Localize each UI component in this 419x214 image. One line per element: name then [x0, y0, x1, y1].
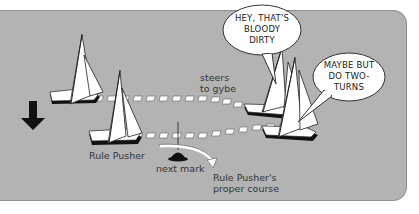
- bubble2-line1: MAYBE BUT: [318, 60, 380, 71]
- proper-course-label: Rule Pusher's proper course: [213, 172, 279, 194]
- bubble1-line3: DIRTY: [229, 35, 295, 46]
- steers-label-line1: steers: [200, 72, 236, 83]
- proper-course-line2: proper course: [213, 183, 279, 194]
- wake-track-upper: [81, 96, 243, 107]
- buoy-mark-icon: [168, 122, 188, 162]
- bubble1-line2: BLOODY: [229, 24, 295, 35]
- next-mark-label: next mark: [156, 163, 205, 174]
- rule-pusher-label: Rule Pusher: [89, 150, 145, 161]
- steers-to-gybe-label: steers to gybe: [200, 72, 236, 94]
- sailing-scene: [0, 0, 419, 214]
- proper-course-line1: Rule Pusher's: [213, 172, 279, 183]
- steers-label-line2: to gybe: [200, 83, 236, 94]
- bubble2-line3: TURNS: [318, 82, 380, 93]
- sailboat-top-left-icon: [50, 34, 103, 104]
- speech-bubble-1-text: HEY, THAT'S BLOODY DIRTY: [229, 13, 295, 46]
- speech-bubble-2-text: MAYBE BUT DO TWO- TURNS: [318, 60, 380, 93]
- down-arrow-icon: [21, 101, 45, 130]
- bubble2-line2: DO TWO-: [318, 71, 380, 82]
- bubble1-line1: HEY, THAT'S: [229, 13, 295, 24]
